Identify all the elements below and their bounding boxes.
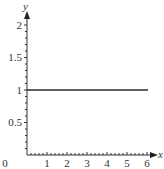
x-tick-label-3: 3 (84, 157, 90, 169)
x-axis-arrow-icon (150, 152, 158, 158)
x-tick-label-2: 2 (64, 157, 70, 169)
y-axis-label: y (22, 0, 28, 12)
y-tick-label-2: 2 (17, 19, 23, 31)
y-tick-label-1.5: 1.5 (8, 51, 22, 63)
x-tick-label-6: 6 (144, 157, 150, 169)
y-tick-label-0.5: 0.5 (8, 116, 22, 128)
x-tick-label-4: 4 (104, 157, 110, 169)
x-axis-label: x (157, 148, 163, 160)
x-tick-label-1: 1 (44, 157, 50, 169)
origin-label: 0 (2, 157, 8, 169)
y-tick-label-1: 1 (17, 84, 23, 96)
x-tick-label-5: 5 (124, 157, 130, 169)
chart: y x 2 1.5 1 0.5 0 1 2 3 4 5 6 (0, 0, 164, 169)
y-axis-arrow-icon (24, 11, 30, 19)
